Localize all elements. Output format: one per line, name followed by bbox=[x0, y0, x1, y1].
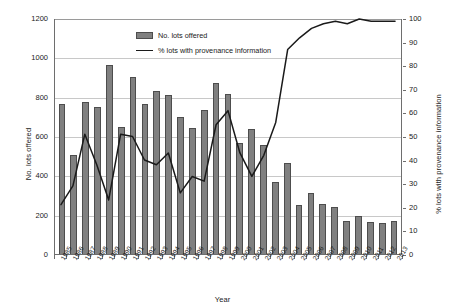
bar-slot bbox=[92, 19, 104, 254]
y-axis-right-tick-label: 100 bbox=[409, 15, 449, 23]
y-axis-right-tick-mark bbox=[403, 161, 406, 162]
y-axis-right-tick-mark bbox=[403, 208, 406, 209]
y-axis-right-tick-mark bbox=[403, 184, 406, 185]
bar bbox=[248, 129, 255, 254]
bar-slot bbox=[80, 19, 92, 254]
bar-slot bbox=[352, 19, 364, 254]
y-axis-right-tick-mark bbox=[403, 66, 406, 67]
bar bbox=[153, 91, 160, 254]
bar-slot bbox=[56, 19, 68, 254]
bar-slot bbox=[68, 19, 80, 254]
bar-slot bbox=[115, 19, 127, 254]
y-axis-left-tick-label: 1200 bbox=[4, 15, 48, 23]
x-axis-tick-labels: 1985198619871988198919901991199219931994… bbox=[54, 258, 402, 288]
y-axis-right-tick-label: 0 bbox=[409, 251, 449, 259]
bar bbox=[201, 110, 208, 254]
bar-slot bbox=[269, 19, 281, 254]
legend-item-label: % lots with provenance information bbox=[158, 46, 271, 55]
bar-slot bbox=[103, 19, 115, 254]
bar bbox=[94, 107, 101, 254]
y-axis-right-tick-mark bbox=[403, 137, 406, 138]
bar bbox=[272, 182, 279, 254]
legend-item-line: % lots with provenance information bbox=[136, 43, 271, 58]
bar bbox=[118, 127, 125, 254]
bar bbox=[82, 102, 89, 254]
bar bbox=[70, 155, 77, 254]
y-axis-right-tick-mark bbox=[403, 113, 406, 114]
bar bbox=[59, 104, 66, 254]
bar-slot bbox=[281, 19, 293, 254]
legend-item-label: No. lots offered bbox=[158, 31, 207, 40]
y-axis-right-tick-mark bbox=[403, 43, 406, 44]
y-axis-right-tick-label: 50 bbox=[409, 133, 449, 141]
bar-slot bbox=[329, 19, 341, 254]
bar-slot bbox=[376, 19, 388, 254]
bar bbox=[189, 128, 196, 254]
bar-slot bbox=[305, 19, 317, 254]
y-axis-right-tick-label: 80 bbox=[409, 62, 449, 70]
y-axis-right-tick-mark bbox=[403, 231, 406, 232]
y-axis-left-tick-label: 400 bbox=[4, 172, 48, 180]
chart-figure: No. lots offered % lots with provenance … bbox=[0, 0, 453, 307]
y-axis-right-tick-label: 30 bbox=[409, 180, 449, 188]
bar bbox=[236, 143, 243, 254]
line-swatch-icon bbox=[136, 50, 153, 51]
bar-swatch-icon bbox=[136, 32, 153, 39]
bar bbox=[177, 117, 184, 254]
y-axis-right-tick-label: 60 bbox=[409, 109, 449, 117]
bar bbox=[225, 94, 232, 254]
y-axis-right-tick-label: 10 bbox=[409, 227, 449, 235]
y-axis-left-tick-label: 800 bbox=[4, 94, 48, 102]
bar bbox=[213, 83, 220, 254]
bar bbox=[106, 65, 113, 254]
y-axis-right-tick-mark bbox=[403, 19, 406, 20]
bar bbox=[165, 95, 172, 254]
bar bbox=[260, 145, 267, 254]
legend-item-bar: No. lots offered bbox=[136, 28, 271, 43]
bar-slot bbox=[341, 19, 353, 254]
y-axis-right-tick-label: 70 bbox=[409, 86, 449, 94]
bar-slot bbox=[317, 19, 329, 254]
legend: No. lots offered % lots with provenance … bbox=[136, 28, 271, 58]
bar-slot bbox=[388, 19, 400, 254]
bar bbox=[130, 77, 137, 254]
y-axis-left-tick-label: 600 bbox=[4, 133, 48, 141]
y-axis-left-tick-label: 200 bbox=[4, 212, 48, 220]
bar-slot bbox=[293, 19, 305, 254]
y-axis-right-tick-label: 90 bbox=[409, 39, 449, 47]
x-axis-title-wrap: Year bbox=[0, 295, 453, 304]
y-axis-left-tick-label: 0 bbox=[4, 251, 48, 259]
bar bbox=[142, 104, 149, 254]
bar-slot bbox=[364, 19, 376, 254]
y-axis-right-tick-label: 40 bbox=[409, 157, 449, 165]
y-axis-right-tick-mark bbox=[403, 90, 406, 91]
y-axis-left-tick-label: 1000 bbox=[4, 54, 48, 62]
y-axis-right-tick-label: 20 bbox=[409, 204, 449, 212]
x-axis-title: Year bbox=[215, 295, 231, 304]
bar bbox=[284, 163, 291, 254]
